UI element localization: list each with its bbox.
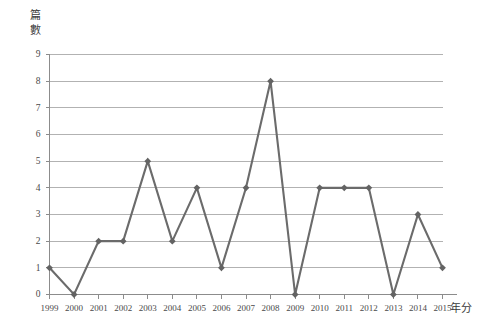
y-tick-label: 1 — [36, 263, 41, 273]
data-point-marker — [365, 184, 372, 191]
y-tick-label: 0 — [36, 289, 41, 299]
data-point-marker — [390, 291, 397, 298]
y-tick-label: 3 — [36, 209, 41, 219]
data-point-marker — [95, 238, 102, 245]
gridlines — [50, 55, 443, 268]
y-tick-labels: 0123456789 — [36, 49, 41, 299]
data-point-marker — [292, 291, 299, 298]
x-tick-label: 1999 — [41, 303, 60, 313]
data-point-marker — [218, 264, 225, 271]
x-tick-label: 2010 — [311, 303, 330, 313]
x-tick-label: 2005 — [188, 303, 207, 313]
y-tick-label: 8 — [36, 76, 41, 86]
data-point-marker — [120, 238, 127, 245]
y-axis — [46, 55, 50, 295]
x-tick-label: 2008 — [262, 303, 281, 313]
y-tick-label: 9 — [36, 49, 41, 59]
x-tick-label: 2013 — [384, 303, 403, 313]
y-tick-label: 5 — [36, 156, 41, 166]
y-tick-label: 6 — [36, 129, 41, 139]
x-tick-label: 2001 — [90, 303, 108, 313]
data-point-marker — [169, 238, 176, 245]
x-tick-label: 2004 — [163, 303, 182, 313]
data-point-marker — [267, 78, 274, 85]
data-point-marker — [243, 184, 250, 191]
data-point-marker — [316, 184, 323, 191]
x-tick-labels: 1999200020012002200320042005200620072008… — [41, 303, 453, 313]
x-tick-label: 2015 — [434, 303, 453, 313]
data-point-marker — [144, 158, 151, 165]
x-tick-label: 2006 — [212, 303, 231, 313]
x-tick-label: 2009 — [286, 303, 305, 313]
data-point-marker — [415, 211, 422, 218]
data-point-marker — [341, 184, 348, 191]
y-tick-label: 2 — [36, 236, 41, 246]
x-tick-label: 2014 — [409, 303, 428, 313]
x-tick-label: 2002 — [114, 303, 132, 313]
x-tick-label: 2011 — [335, 303, 353, 313]
y-tick-label: 7 — [36, 103, 41, 113]
chart-plot-area: 0123456789 19992000200120022003200420052… — [0, 0, 492, 336]
y-tick-label: 4 — [36, 183, 41, 193]
line-chart: 篇 數 年分 0123456789 1999200020012002200320… — [0, 0, 492, 336]
x-tick-label: 2000 — [65, 303, 84, 313]
data-point-marker — [439, 264, 446, 271]
x-tick-label: 2012 — [360, 303, 378, 313]
data-point-marker — [193, 184, 200, 191]
x-tick-label: 2003 — [139, 303, 158, 313]
x-tick-label: 2007 — [237, 303, 256, 313]
